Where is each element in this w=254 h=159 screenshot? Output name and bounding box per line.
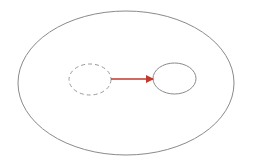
original-position-dashed-ellipse [69, 64, 111, 95]
new-position-solid-ellipse [153, 63, 196, 94]
outer-region-ellipse [18, 11, 234, 155]
diagram-canvas [0, 0, 254, 159]
